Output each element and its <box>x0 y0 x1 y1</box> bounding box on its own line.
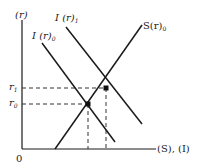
equilibrium-point-r1 <box>104 86 109 91</box>
origin-label-text: 0 <box>16 153 22 164</box>
curve-label-i0-text: I (r) <box>32 30 52 41</box>
origin-label: 0 <box>16 154 22 164</box>
curve-label-i1-sub: 1 <box>75 17 79 24</box>
curve-label-i0: I (r)0 <box>32 31 56 42</box>
equilibrium-point-r0 <box>86 102 91 107</box>
x-axis-label-text: (S), (I) <box>157 143 190 154</box>
curve-label-s0: S(r)0 <box>143 21 166 32</box>
y-axis-label-text: (r) <box>15 9 28 20</box>
y-tick-r0: r0 <box>9 98 18 109</box>
y-tick-r0-sub: 0 <box>14 102 18 109</box>
savings-curve-s0 <box>55 25 142 149</box>
curve-label-s0-sub: 0 <box>162 25 166 32</box>
x-axis-label: (S), (I) <box>157 144 190 154</box>
y-tick-r1-sub: 1 <box>14 86 18 93</box>
curve-label-i0-sub: 0 <box>52 35 56 42</box>
y-axis-label: (r) <box>15 10 28 20</box>
y-tick-r1: r1 <box>9 82 18 93</box>
investment-curve-i0 <box>42 43 115 142</box>
curve-label-s0-text: S(r) <box>143 20 162 31</box>
curve-label-i1: I (r)1 <box>55 13 79 24</box>
diagram-canvas <box>0 0 203 166</box>
curve-label-i1-text: I (r) <box>55 12 75 23</box>
